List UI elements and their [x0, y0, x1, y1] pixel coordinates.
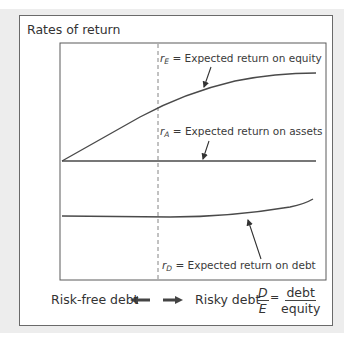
arrow-rA [203, 141, 209, 159]
arrow-rD [248, 220, 261, 259]
label-rD: rD = Expected return on debt [162, 259, 316, 273]
curve-rD [62, 199, 313, 217]
ratio-de: D E [257, 285, 269, 316]
label-rA: rA = Expected return on assets [160, 125, 323, 139]
ratio-debt-equity: debt equity [281, 285, 320, 316]
risky-debt-label: Risky debt [195, 292, 260, 307]
equals-sign: = [270, 291, 279, 304]
label-rE: rE = Expected return on equity [160, 52, 322, 66]
curve-rE [62, 73, 316, 161]
arrow-rE [204, 67, 211, 87]
right-arrow-icon [163, 296, 183, 304]
risk-free-debt-label: Risk-free debt [51, 292, 139, 307]
